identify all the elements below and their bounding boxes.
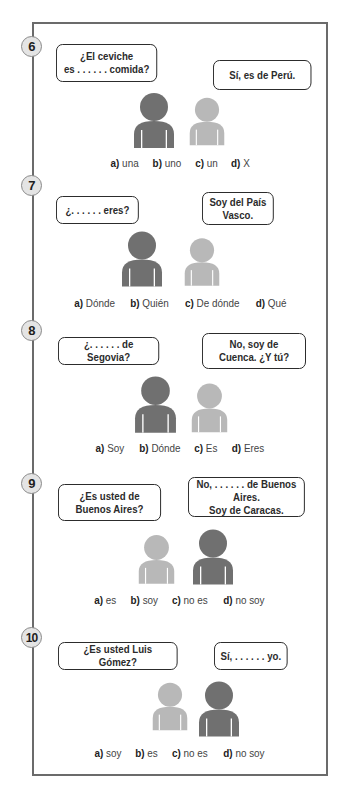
person-icon: [132, 92, 176, 148]
option-letter: c): [195, 157, 204, 169]
bubble-text: No, . . . . . . de Buenos Aires. Soy de …: [194, 478, 298, 517]
question-number-badge: 8: [21, 320, 42, 341]
option-b[interactable]: b) es: [135, 747, 158, 759]
option-word: uno: [165, 157, 182, 169]
option-letter: d): [232, 442, 241, 454]
question-number-badge: 6: [21, 36, 42, 57]
option-word: Es: [206, 442, 218, 454]
option-word: X: [243, 157, 250, 169]
option-word: Dónde: [151, 442, 180, 454]
bubble-text: Soy del País Vasco.: [209, 196, 266, 222]
option-b[interactable]: b) Quién: [130, 297, 169, 309]
option-letter: d): [255, 297, 264, 309]
question-number-badge: 10: [21, 627, 42, 648]
option-b[interactable]: b) soy: [130, 594, 158, 606]
option-letter: a): [94, 594, 103, 606]
person-icon: [133, 375, 178, 433]
option-word: es: [106, 594, 116, 606]
option-c[interactable]: c) no es: [172, 747, 208, 759]
option-letter: b): [135, 747, 144, 759]
option-letter: a): [111, 157, 120, 169]
option-letter: c): [172, 747, 181, 759]
option-word: De dónde: [197, 297, 240, 309]
option-letter: a): [95, 747, 104, 759]
option-b[interactable]: b) uno: [153, 157, 182, 169]
option-a[interactable]: a) Soy: [95, 442, 124, 454]
person-icon: [188, 96, 226, 146]
bubble-text: Sí, . . . . . . yo.: [220, 650, 281, 663]
answer-options: a) una b) uno c) un d) X: [34, 157, 326, 169]
option-letter: b): [153, 157, 162, 169]
option-a[interactable]: a) es: [94, 594, 116, 606]
option-letter: c): [185, 297, 194, 309]
option-d[interactable]: d) X: [231, 157, 250, 169]
option-b[interactable]: b) Dónde: [139, 442, 180, 454]
person-icon: [120, 230, 164, 287]
bubble-text: No, soy de Cuenca. ¿Y tú?: [219, 338, 289, 364]
person-icon: [190, 382, 229, 433]
option-letter: d): [223, 594, 232, 606]
option-word: no soy: [235, 594, 264, 606]
option-a[interactable]: a) Dónde: [74, 297, 115, 309]
speech-bubble-left: ¿Es usted de Buenos Aires?: [58, 484, 161, 521]
option-word: Soy: [107, 442, 124, 454]
option-a[interactable]: a) una: [111, 157, 139, 169]
option-word: Qué: [268, 297, 287, 309]
answer-options: a) es b) soy c) no es d) no soy: [34, 594, 326, 606]
option-d[interactable]: d) Qué: [255, 297, 286, 309]
option-letter: d): [223, 747, 232, 759]
person-icon: [137, 534, 176, 584]
bubble-text: ¿Es usted de Buenos Aires?: [76, 490, 144, 516]
speech-bubble-left: ¿El ceviche es . . . . . . comida?: [56, 44, 157, 82]
person-icon: [183, 236, 221, 287]
person-icon: [191, 528, 235, 585]
option-word: no es: [184, 747, 208, 759]
speech-bubble-right: Sí, . . . . . . yo.: [214, 642, 288, 670]
option-c[interactable]: c) Es: [195, 442, 218, 454]
option-letter: b): [139, 442, 148, 454]
option-a[interactable]: a) soy: [95, 747, 122, 759]
answer-options: a) Soy b) Dónde c) Es d) Eres: [34, 442, 326, 454]
bubble-text: ¿. . . . . . de Segovia?: [64, 338, 152, 364]
option-letter: b): [130, 297, 139, 309]
bubble-text: ¿. . . . . . eres?: [65, 204, 129, 217]
option-letter: c): [172, 594, 181, 606]
question-number-badge: 9: [21, 473, 42, 494]
person-icon: [197, 680, 241, 737]
bubble-text: ¿El ceviche es . . . . . . comida?: [64, 50, 149, 76]
option-letter: c): [195, 442, 204, 454]
bubble-text: ¿Es usted Luis Gómez?: [64, 643, 171, 669]
option-word: es: [147, 747, 157, 759]
option-word: una: [122, 157, 139, 169]
bubble-text: Sí, es de Perú.: [229, 69, 295, 82]
speech-bubble-left: ¿Es usted Luis Gómez?: [58, 642, 178, 670]
person-icon: [151, 681, 189, 731]
option-letter: b): [130, 594, 139, 606]
answer-options: a) Dónde b) Quién c) De dónde d) Qué: [34, 297, 326, 309]
option-word: no es: [184, 594, 208, 606]
option-d[interactable]: d) no soy: [223, 594, 264, 606]
speech-bubble-right: Soy del País Vasco.: [202, 192, 274, 225]
option-word: soy: [142, 594, 157, 606]
option-word: un: [207, 157, 218, 169]
option-word: Eres: [244, 442, 264, 454]
speech-bubble-right: No, . . . . . . de Buenos Aires. Soy de …: [188, 477, 305, 517]
question-number-badge: 7: [21, 175, 42, 196]
speech-bubble-left: ¿. . . . . . eres?: [56, 196, 139, 224]
option-c[interactable]: c) De dónde: [185, 297, 240, 309]
option-word: Quién: [143, 297, 169, 309]
option-c[interactable]: c) no es: [172, 594, 208, 606]
option-word: Dónde: [86, 297, 115, 309]
speech-bubble-left: ¿. . . . . . de Segovia?: [58, 337, 159, 365]
option-letter: a): [95, 442, 104, 454]
option-d[interactable]: d) Eres: [232, 442, 264, 454]
option-letter: a): [74, 297, 83, 309]
option-word: no soy: [235, 747, 264, 759]
speech-bubble-right: No, soy de Cuenca. ¿Y tú?: [202, 333, 306, 369]
option-letter: d): [231, 157, 240, 169]
speech-bubble-right: Sí, es de Perú.: [213, 60, 311, 90]
answer-options: a) soy b) es c) no es d) no soy: [34, 747, 326, 759]
option-c[interactable]: c) un: [195, 157, 218, 169]
option-word: soy: [106, 747, 121, 759]
option-d[interactable]: d) no soy: [223, 747, 264, 759]
